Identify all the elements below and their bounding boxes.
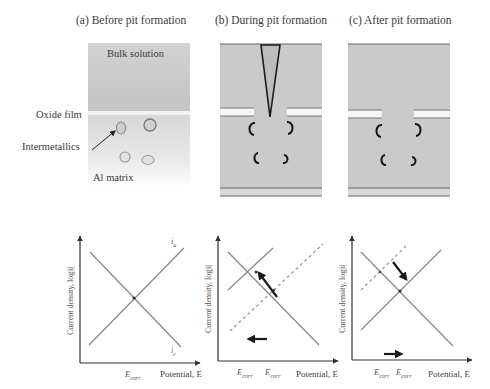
- chart1-ic-label: ic: [171, 346, 176, 357]
- chart-after-pit: [352, 236, 472, 360]
- chart3-y-axis-label: Current density, log|i|: [338, 264, 347, 333]
- cathodic-line: [361, 252, 453, 346]
- chart2-ecorr-old-label: Ecorr: [265, 367, 281, 379]
- chart1-ia-label: ia: [171, 237, 176, 248]
- chart-during-pit: [218, 236, 338, 361]
- chart-before-pit: [80, 236, 200, 363]
- cathodic-line: [90, 252, 181, 347]
- chart1-ecorr-label: Ecorr: [125, 369, 141, 381]
- cathodic-line: [228, 252, 319, 345]
- chart2-x-axis-label: Potential, E: [296, 369, 338, 379]
- shift-down-right-arrow-icon: [393, 262, 406, 279]
- intersection-point: [379, 271, 382, 274]
- intersection-point: [399, 290, 402, 293]
- chart2-ecorr-new-label: Ecorr: [237, 367, 253, 379]
- intersection-point: [255, 271, 258, 274]
- anodic-line: [89, 248, 184, 345]
- chart1-x-axis-label: Potential, E: [160, 369, 202, 379]
- chart3-ecorr-new-label: Ecorr: [396, 367, 412, 379]
- chart3-x-axis-label: Potential, E: [428, 369, 470, 379]
- chart1-y-axis-label: Current density, log|i|: [66, 266, 75, 335]
- anodic-line-previous-dashed: [230, 244, 323, 331]
- intersection-point: [132, 296, 135, 299]
- chart2-y-axis-label: Current density, log|i|: [204, 264, 213, 333]
- anodic-line-previous-dashed: [361, 246, 406, 290]
- chart3-ecorr-old-label: Ecorr: [374, 367, 390, 379]
